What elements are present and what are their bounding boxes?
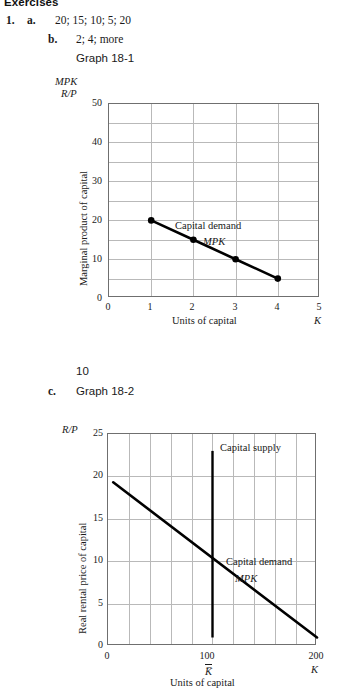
graph-18-2-xtick-annotation-kbar: K̅ [205,664,212,677]
answer-text-a: 20; 15; 10; 5; 20 [55,14,131,26]
graph-18-1-annotation-mpk: MPK [203,236,225,247]
graph-18-2-xtick-100: 100 [196,650,218,661]
graph-18-1-y-axis-title: Marginal product of capital [78,171,89,286]
mid-value: 10 [76,365,89,377]
graph-18-1-xtick-2: 2 [182,301,202,312]
graph-18-2-series-svg [108,434,317,646]
graph-18-1-xtick-5: 5 [309,301,329,312]
graph-18-1-series-svg [109,104,320,298]
graph-18-2-annotation-capital-supply: Capital supply [220,442,281,453]
data-point-marker [275,275,282,282]
answer-text-b: 2; 4; more [76,33,123,45]
answer-number: 1. [6,14,15,26]
graph-18-2-corner-label-rp: R/P [62,424,78,435]
graph-18-1-ytick-50: 50 [82,97,102,108]
graph-18-1-corner-label-rp: R/P [61,88,77,99]
graph2-caption: Graph 18-2 [76,385,134,397]
data-point-marker [232,256,239,263]
answer-letter-a: a. [27,14,36,26]
graph-18-2-ytick-25: 25 [83,427,103,438]
data-point-marker [190,237,197,244]
graph-18-1-ytick-40: 40 [82,136,102,147]
graph-18-2-x-axis-symbol: K [311,664,318,675]
graph-18-1-x-axis-symbol: K [314,315,321,326]
graph-18-2-ytick-20: 20 [83,469,103,480]
graph-18-1-corner-label-mpk: MPK [55,76,77,87]
graph-18-1-xtick-4: 4 [267,301,287,312]
graph-18-2-xtick-200: 200 [305,650,327,661]
graph-18-2-xtick-0: 0 [97,650,117,661]
graph-18-1-xtick-0: 0 [98,301,118,312]
graph-18-2-annotation-mpk: MPK [235,573,257,584]
answer-letter-b: b. [48,33,57,45]
graph-18-1-xtick-3: 3 [225,301,245,312]
graph-18-2-x-axis-title: Units of capital [170,677,235,688]
graph-18-2-ytick-15: 15 [83,512,103,523]
graph-18-1-plot-area: Capital demand MPK [108,103,319,297]
graph-18-1-xtick-1: 1 [140,301,160,312]
graph1-caption: Graph 18-1 [76,52,134,64]
page-heading: Exercises [4,0,59,8]
graph-18-2-y-axis-title: Real rental price of capital [77,523,88,634]
graph-18-2-ytick-0: 0 [83,639,103,650]
graph-18-1-x-axis-title: Units of capital [172,315,237,326]
graph-18-2-annotation-capital-demand: Capital demand [226,556,292,567]
data-point-marker [148,217,155,224]
graph-18-1-annotation-capital-demand: Capital demand [175,220,241,231]
answer-letter-c: c. [48,385,56,397]
graph-18-2-plot-area: Capital supply Capital demand MPK [107,433,316,645]
